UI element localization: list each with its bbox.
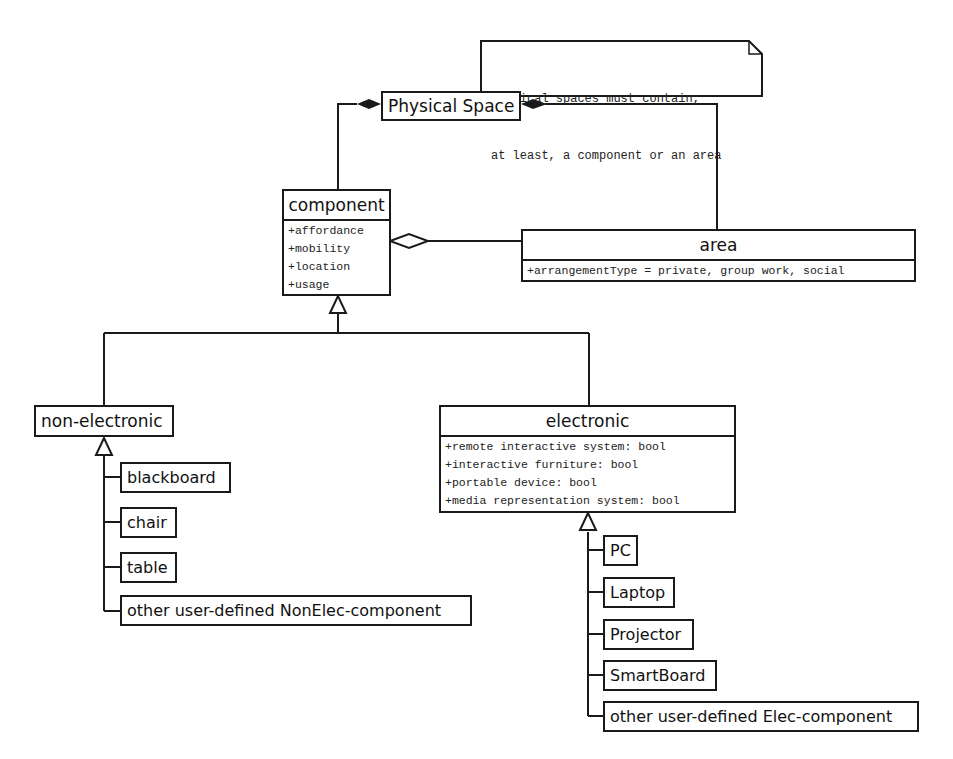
uml-diagram: Physical spaces must contain, at least, … xyxy=(0,0,953,759)
class-name: electronic xyxy=(441,407,734,437)
attribute: +mobility xyxy=(288,240,385,258)
class-component[interactable]: component +affordance +mobility +locatio… xyxy=(282,189,391,296)
class-physical-space[interactable]: Physical Space xyxy=(381,91,521,121)
class-pc[interactable]: PC xyxy=(603,535,638,566)
class-other-elec-component[interactable]: other user-defined Elec-component xyxy=(603,701,919,732)
attribute: +interactive furniture: bool xyxy=(445,456,730,474)
attribute: +remote interactive system: bool xyxy=(445,438,730,456)
attribute-list: +affordance +mobility +location +usage xyxy=(284,221,389,295)
attribute: +portable device: bool xyxy=(445,474,730,492)
class-chair[interactable]: chair xyxy=(120,507,177,538)
class-name: blackboard xyxy=(127,468,216,487)
class-smartboard[interactable]: SmartBoard xyxy=(603,660,717,691)
composition-diamond-left xyxy=(357,99,381,109)
attribute: +affordance xyxy=(288,222,385,240)
class-table[interactable]: table xyxy=(120,552,177,583)
class-name: Projector xyxy=(610,625,681,644)
class-name: Laptop xyxy=(610,583,665,602)
class-projector[interactable]: Projector xyxy=(603,619,694,650)
class-name: component xyxy=(284,191,389,221)
attribute: +location xyxy=(288,258,385,276)
aggregation-diamond xyxy=(390,234,428,248)
class-name: PC xyxy=(610,541,631,560)
class-non-electronic[interactable]: non-electronic xyxy=(34,405,174,437)
generalization-triangle-nonelectronic xyxy=(96,438,112,455)
class-name: Physical Space xyxy=(388,96,514,116)
class-electronic[interactable]: electronic +remote interactive system: b… xyxy=(439,405,736,513)
attribute: +media representation system: bool xyxy=(445,492,730,510)
class-name: other user-defined NonElec-component xyxy=(127,601,441,620)
generalization-triangle-electronic xyxy=(580,513,596,530)
class-name: SmartBoard xyxy=(610,666,705,685)
attribute: +arrangementType = private, group work, … xyxy=(527,262,910,280)
attribute: +usage xyxy=(288,276,385,294)
note-line-2: at least, a component or an area xyxy=(491,147,751,166)
class-name: non-electronic xyxy=(41,411,163,431)
class-other-nonelec-component[interactable]: other user-defined NonElec-component xyxy=(120,595,472,626)
class-blackboard[interactable]: blackboard xyxy=(120,462,231,493)
class-name: area xyxy=(523,231,914,261)
attribute-list: +arrangementType = private, group work, … xyxy=(523,261,914,281)
class-name: chair xyxy=(127,513,167,532)
class-name: other user-defined Elec-component xyxy=(610,707,892,726)
attribute-list: +remote interactive system: bool +intera… xyxy=(441,437,734,511)
class-name: table xyxy=(127,558,168,577)
constraint-note: Physical spaces must contain, at least, … xyxy=(483,43,759,94)
class-laptop[interactable]: Laptop xyxy=(603,577,675,608)
class-area[interactable]: area +arrangementType = private, group w… xyxy=(521,229,916,282)
note-line-1: Physical spaces must contain, xyxy=(491,90,751,109)
generalization-triangle-component xyxy=(330,296,346,313)
